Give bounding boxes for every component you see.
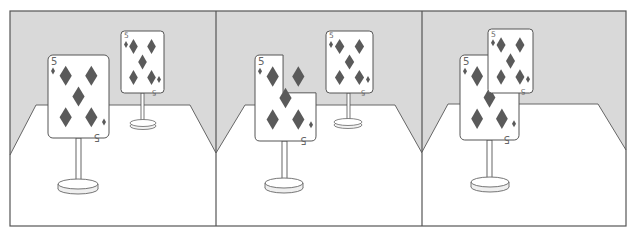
- card-index-rank: 5: [329, 31, 334, 40]
- panel-1: 555 ♦ 555 ♦: [10, 11, 216, 226]
- panel-2-floor: [216, 105, 422, 226]
- playing-card-front: 555 ♦: [48, 55, 109, 143]
- card-index-rank: 5: [124, 31, 129, 40]
- playing-card-back: 555 ♦: [121, 31, 164, 97]
- card-index-rank-inverted: 5: [361, 88, 366, 97]
- card-index-rank: 5: [258, 55, 265, 67]
- illustration-canvas: 555 ♦ 555 ♦ 555 ♦ 55: [0, 0, 636, 235]
- card-index-rank-inverted: 5: [94, 132, 100, 143]
- playing-card-back: 555 ♦: [326, 31, 373, 97]
- card-index-rank-inverted: 5: [152, 88, 157, 97]
- card-index-rank-inverted: 5: [503, 134, 509, 145]
- three-panel-illustration: 555 ♦ 555 ♦ 555 ♦ 55: [0, 0, 636, 235]
- playing-card-back-overlapping: 555 ♦: [488, 29, 533, 96]
- panel-3-floor: [422, 104, 626, 226]
- card-index-rank: 5: [491, 30, 496, 39]
- panel-2: 555 ♦ 555 ♦: [216, 11, 422, 226]
- card-index-rank: 5: [463, 56, 469, 67]
- card-index-rank: 5: [51, 56, 57, 67]
- card-index-rank-inverted: 5: [520, 87, 525, 96]
- panel-1-floor: [10, 105, 216, 226]
- card-index-rank-inverted: 5: [300, 135, 307, 147]
- panel-3: 555 ♦ 555 ♦: [422, 11, 626, 226]
